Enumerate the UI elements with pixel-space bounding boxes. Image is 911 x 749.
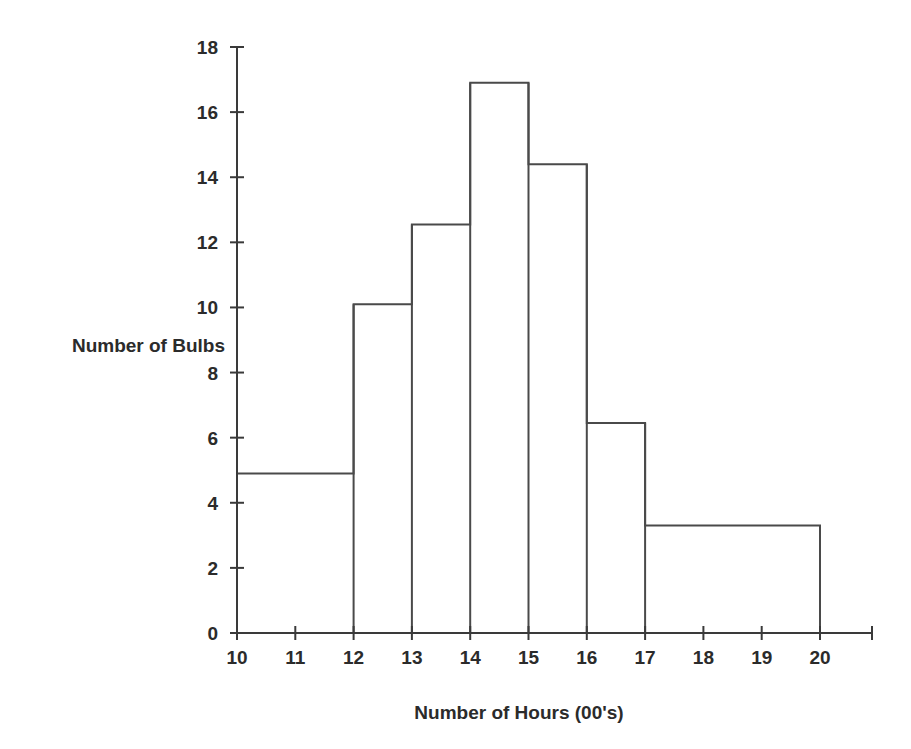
histogram-bar <box>354 304 412 633</box>
histogram-figure: 024681012141618 1011121314151617181920 N… <box>0 0 911 749</box>
histogram-bar <box>237 473 354 633</box>
y-tick-label: 6 <box>207 428 218 449</box>
x-tick-label: 14 <box>460 647 482 668</box>
y-tick-label: 8 <box>207 363 218 384</box>
y-tick-label: 10 <box>197 297 218 318</box>
x-tick-label: 15 <box>518 647 540 668</box>
histogram-bar <box>645 526 820 633</box>
x-tick-label: 12 <box>343 647 364 668</box>
x-tick-label: 10 <box>226 647 247 668</box>
x-tick-label: 20 <box>809 647 830 668</box>
y-tick-label: 18 <box>197 37 218 58</box>
y-tick-label: 4 <box>207 493 218 514</box>
x-tick-label: 11 <box>285 647 306 668</box>
y-tick-label: 14 <box>197 167 219 188</box>
y-tick-label: 16 <box>197 102 218 123</box>
histogram-bar <box>529 164 587 633</box>
x-tick-label: 19 <box>751 647 772 668</box>
histogram-bar <box>587 423 645 633</box>
y-tick-label: 2 <box>207 558 218 579</box>
x-tick-label: 18 <box>693 647 714 668</box>
x-axis-title: Number of Hours (00's) <box>414 702 623 723</box>
histogram-bar <box>412 224 470 633</box>
histogram-svg: 024681012141618 1011121314151617181920 N… <box>0 0 911 749</box>
y-tick-label: 0 <box>207 623 218 644</box>
x-tick-label: 17 <box>635 647 656 668</box>
x-tick-label: 16 <box>576 647 597 668</box>
y-axis-title: Number of Bulbs <box>72 335 225 356</box>
x-tick-label: 13 <box>401 647 422 668</box>
y-tick-label: 12 <box>197 232 218 253</box>
histogram-bar <box>470 83 528 633</box>
